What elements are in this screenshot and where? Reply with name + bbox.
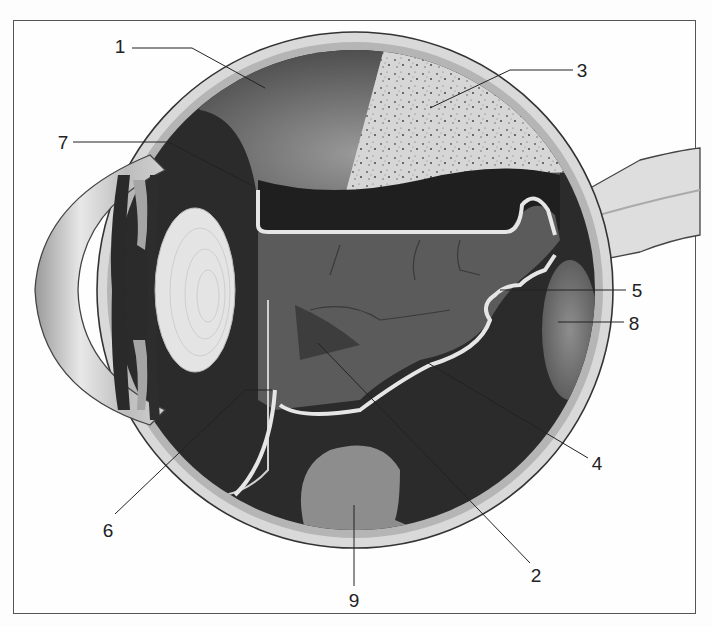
callout-label-1: 1 <box>115 37 126 56</box>
callout-label-9: 9 <box>349 591 360 610</box>
callout-label-2: 2 <box>531 566 542 585</box>
callout-label-3: 3 <box>577 61 588 80</box>
callout-label-7: 7 <box>58 133 69 152</box>
callout-label-8: 8 <box>629 314 640 333</box>
callout-label-5: 5 <box>632 281 643 300</box>
lens <box>155 208 235 372</box>
callout-label-4: 4 <box>592 454 603 473</box>
callout-label-6: 6 <box>103 521 114 540</box>
